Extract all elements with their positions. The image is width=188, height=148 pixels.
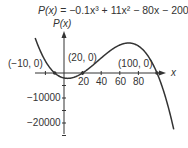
equation-title: P(x) = −0.1x³ + 11x² − 80x − 2000 — [38, 4, 188, 16]
y-tick-label-neg20000: −20000 — [27, 117, 61, 128]
root-label-100: (100, 0) — [118, 58, 152, 69]
y-axis-arrow-icon — [62, 31, 67, 38]
equation-lhs: P(x) — [38, 4, 57, 16]
x-tick-label-60: 60 — [115, 76, 126, 87]
y-tick-label-neg10000: −10000 — [27, 92, 61, 103]
x-axis-arrow-icon — [159, 71, 166, 76]
root-point — [81, 71, 85, 75]
root-label-neg10: (−10, 0) — [8, 58, 43, 69]
x-axis-label: x — [171, 67, 176, 78]
x-tick-label-80: 80 — [133, 76, 144, 87]
root-point — [155, 71, 159, 75]
root-label-20: (20, 0) — [68, 52, 97, 63]
y-axis-label: P(x) — [53, 18, 71, 29]
x-tick-label-40: 40 — [96, 76, 107, 87]
equation-rhs: = −0.1x³ + 11x² − 80x − 2000 — [57, 4, 188, 16]
root-point — [53, 71, 57, 75]
x-tick-label-20: 20 — [78, 76, 89, 87]
